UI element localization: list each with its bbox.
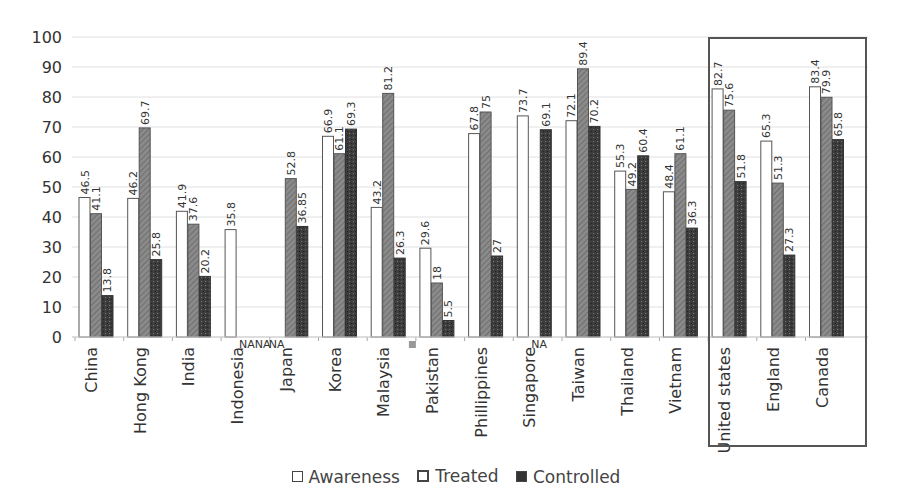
value-label: 25.8 <box>150 232 163 257</box>
y-tick-label: 0 <box>52 328 62 347</box>
bar-treated <box>578 69 589 337</box>
bar-awareness <box>420 248 431 337</box>
bar-group: 46.541.113.8 <box>79 170 115 337</box>
x-category-label: Phillippines <box>472 347 491 438</box>
bar-treated <box>139 128 150 337</box>
bar-awareness <box>323 136 334 337</box>
bar-controlled <box>297 226 308 337</box>
bar-group: 73.769.1 <box>517 88 553 337</box>
value-label: 72.1 <box>566 93 579 118</box>
x-category-label: China <box>82 347 101 393</box>
x-category-label: India <box>179 347 198 386</box>
legend-item-treated: Treated <box>417 466 498 486</box>
bar-treated <box>772 183 783 337</box>
legend-label: Treated <box>435 466 498 486</box>
marker-icon <box>409 341 416 348</box>
x-category-label: Pakistan <box>423 347 442 414</box>
value-label: 51.8 <box>735 154 748 179</box>
x-category-label: Thailand <box>618 347 637 417</box>
x-category-label: Vietnam <box>666 347 685 414</box>
bar-controlled <box>443 321 454 338</box>
y-tick-label: 60 <box>42 148 62 167</box>
bar-group: 83.479.965.8 <box>809 59 845 337</box>
bar-awareness <box>566 121 577 337</box>
value-label: 75.6 <box>723 83 736 108</box>
y-tick-label: 50 <box>42 178 62 197</box>
value-label: 26.3 <box>394 231 407 256</box>
bar-controlled <box>346 129 357 337</box>
bar-controlled <box>151 260 162 337</box>
x-category-label: United states <box>715 347 734 454</box>
bar-awareness <box>810 87 821 337</box>
value-label: 60.4 <box>637 128 650 153</box>
bar-controlled <box>394 258 405 337</box>
value-label: 5.5 <box>442 300 455 318</box>
value-label: 36.85 <box>296 192 309 224</box>
y-tick-label: 20 <box>42 268 62 287</box>
value-label: 79.9 <box>821 70 834 95</box>
value-label: 13.8 <box>102 268 115 293</box>
bar-group: 67.87527 <box>468 95 504 337</box>
bar-treated <box>431 283 442 337</box>
y-tick-label: 10 <box>42 298 62 317</box>
value-label: 48.4 <box>663 164 676 189</box>
value-label: 18 <box>431 266 444 280</box>
bar-controlled <box>784 255 795 337</box>
value-label: 27 <box>491 239 504 253</box>
bar-controlled <box>589 126 600 337</box>
value-label: 73.7 <box>517 88 530 113</box>
grouped-bar-chart: 010203040506070809010046.541.113.8China4… <box>0 0 912 500</box>
bar-group: 82.775.651.8 <box>712 61 748 337</box>
y-tick-label: 30 <box>42 238 62 257</box>
value-label: 20.2 <box>199 249 212 274</box>
value-label: 69.3 <box>345 102 358 127</box>
bar-awareness <box>371 207 382 337</box>
value-label: 65.8 <box>832 112 845 137</box>
x-category-label: Hong Kong <box>131 347 150 434</box>
bar-awareness <box>225 230 236 337</box>
bar-treated <box>383 93 394 337</box>
bar-group: 66.961.169.3 <box>322 102 358 337</box>
legend-label: Controlled <box>533 467 620 487</box>
x-category-label: Singapore <box>520 347 539 428</box>
value-label: 36.3 <box>686 201 699 226</box>
value-label: 43.2 <box>371 180 384 205</box>
value-label: 41.1 <box>90 186 103 211</box>
value-label: 69.7 <box>139 100 152 125</box>
y-tick-label: 70 <box>42 118 62 137</box>
bar-controlled <box>735 182 746 337</box>
x-category-label: Korea <box>326 347 345 392</box>
bar-awareness <box>712 89 723 337</box>
bar-controlled <box>540 130 551 337</box>
bar-treated <box>91 214 102 337</box>
chart-legend: Awareness Treated Controlled <box>0 466 912 487</box>
bar-controlled <box>638 156 649 337</box>
value-label: 61.1 <box>334 126 347 151</box>
value-label: 61.1 <box>674 126 687 151</box>
bar-treated <box>821 97 832 337</box>
bar-group: 72.189.470.2 <box>566 41 602 337</box>
bar-awareness <box>663 192 674 337</box>
treated-swatch-icon <box>417 470 429 482</box>
value-label: 89.4 <box>577 41 590 66</box>
y-tick-label: 90 <box>42 58 62 77</box>
bar-group: 55.349.260.4 <box>614 128 650 337</box>
bar-awareness <box>615 171 626 337</box>
bar-treated <box>724 110 735 337</box>
bar-awareness <box>469 134 480 337</box>
bar-group: 46.269.725.8 <box>127 100 163 337</box>
x-category-label: Taiwan <box>569 347 588 402</box>
bar-treated <box>334 154 345 337</box>
legend-label: Awareness <box>309 467 400 487</box>
value-label: 52.8 <box>285 151 298 176</box>
bar-awareness <box>128 198 139 337</box>
value-label: 27.3 <box>783 228 796 253</box>
bar-group: 65.351.327.3 <box>760 114 796 337</box>
bar-controlled <box>102 296 113 337</box>
bar-controlled <box>686 228 697 337</box>
bar-group: 48.461.136.3 <box>663 126 699 337</box>
awareness-swatch-icon <box>292 471 303 482</box>
value-label: 75 <box>480 95 493 109</box>
x-category-label: Canada <box>813 347 832 408</box>
x-category-label: England <box>764 347 783 412</box>
